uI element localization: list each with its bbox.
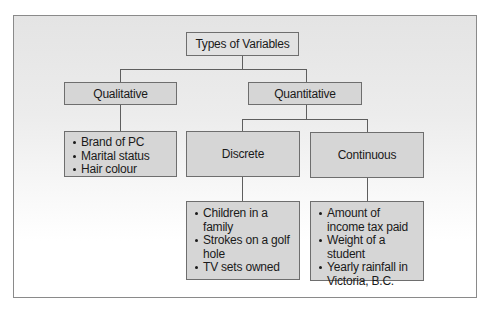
node-qualitative: Qualitative xyxy=(64,82,177,105)
connector-to-qualitative xyxy=(120,69,121,82)
node-continuous: Continuous xyxy=(310,132,424,178)
connector-to-quantitative xyxy=(306,69,307,82)
node-label: Types of Variables xyxy=(195,37,289,51)
example-item: Weight of a student xyxy=(319,234,419,261)
connector-qualitative-examples xyxy=(120,105,121,131)
node-label: Continuous xyxy=(338,148,397,162)
example-item: Strokes on a golf hole xyxy=(195,234,299,261)
qualitative-examples-box: Brand of PC Marital status Hair colour xyxy=(64,131,177,177)
example-item: Brand of PC xyxy=(73,136,176,150)
example-item: TV sets owned xyxy=(195,261,299,275)
example-item: Amount of income tax paid xyxy=(319,207,419,234)
connector-continuous-examples xyxy=(367,178,368,201)
example-item: Yearly rainfall in Victoria, B.C. xyxy=(319,261,419,288)
connector-root-down xyxy=(242,56,243,69)
connector-quantitative-down xyxy=(306,105,307,119)
node-label: Discrete xyxy=(222,147,264,161)
example-item: Hair colour xyxy=(73,163,176,177)
connector-to-discrete xyxy=(242,119,243,131)
connector-level1-horizontal xyxy=(120,69,307,70)
node-types-of-variables: Types of Variables xyxy=(186,32,299,56)
connector-discrete-examples xyxy=(242,177,243,201)
connector-to-continuous xyxy=(367,119,368,132)
example-item: Children in a family xyxy=(195,207,299,234)
continuous-examples-box: Amount of income tax paid Weight of a st… xyxy=(310,201,424,281)
node-label: Quantitative xyxy=(274,87,336,101)
node-discrete: Discrete xyxy=(186,131,300,177)
connector-level2-horizontal xyxy=(242,119,368,120)
node-quantitative: Quantitative xyxy=(248,82,362,105)
node-label: Qualitative xyxy=(93,87,148,101)
discrete-examples-box: Children in a family Strokes on a golf h… xyxy=(186,201,300,280)
example-item: Marital status xyxy=(73,150,176,164)
